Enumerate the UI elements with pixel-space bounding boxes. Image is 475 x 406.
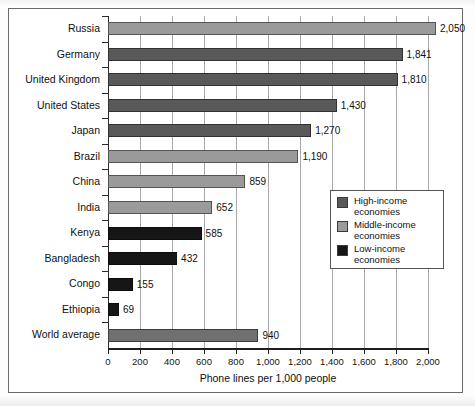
bar-value-label: 1,270 (315, 124, 340, 137)
category-tick (102, 220, 108, 221)
legend-swatch (337, 245, 348, 256)
x-tick-600 (204, 348, 205, 354)
category-label: Congo (0, 271, 100, 297)
bar (108, 124, 311, 137)
category-tick (102, 67, 108, 68)
category-label: Russia (0, 16, 100, 42)
bar (108, 22, 436, 35)
x-tick-2000 (428, 348, 429, 354)
x-tick-200 (140, 348, 141, 354)
category-label: China (0, 169, 100, 195)
x-tick-label: 1,000 (256, 356, 280, 367)
x-tick-0 (108, 348, 109, 354)
bar-value-label: 652 (216, 201, 233, 214)
x-tick-1800 (396, 348, 397, 354)
chart-row: United States1,430 (0, 93, 475, 119)
x-tick-1600 (364, 348, 365, 354)
x-tick-label: 1,800 (384, 356, 408, 367)
category-tick (102, 42, 108, 43)
chart-row: Brazil1,190 (0, 144, 475, 170)
category-label: Germany (0, 42, 100, 68)
x-tick-label: 200 (132, 356, 148, 367)
chart-row: Ethiopia69 (0, 297, 475, 323)
scan-edge-bottom (0, 394, 475, 406)
chart-row: Germany1,841 (0, 42, 475, 68)
legend-label: High-incomeeconomies (354, 196, 407, 217)
bar (108, 99, 337, 112)
x-tick-label: 1,200 (288, 356, 312, 367)
category-tick (102, 169, 108, 170)
chart-row: Russia2,050 (0, 16, 475, 42)
x-tick-1400 (332, 348, 333, 354)
bar-value-label: 585 (206, 227, 223, 240)
x-tick-label: 1,600 (352, 356, 376, 367)
x-tick-800 (236, 348, 237, 354)
legend-swatch (337, 221, 348, 232)
category-tick (102, 322, 108, 323)
category-label: Brazil (0, 144, 100, 170)
category-tick (102, 16, 108, 17)
x-tick-400 (172, 348, 173, 354)
chart-row: Japan1,270 (0, 118, 475, 144)
category-tick (102, 297, 108, 298)
legend-entry: Middle-incomeeconomies (337, 220, 439, 241)
legend: High-incomeeconomiesMiddle-incomeeconomi… (330, 190, 444, 269)
x-axis-title: Phone lines per 1,000 people (108, 372, 428, 384)
x-tick-label: 1,400 (320, 356, 344, 367)
category-label: United Kingdom (0, 67, 100, 93)
chart-row: Congo155 (0, 271, 475, 297)
category-label: Bangladesh (0, 246, 100, 272)
bar (108, 175, 245, 188)
category-label: United States (0, 93, 100, 119)
x-tick-label: 600 (196, 356, 212, 367)
bar-value-label: 1,190 (302, 150, 327, 163)
category-tick (102, 246, 108, 247)
legend-label: Low-incomeeconomies (354, 244, 405, 265)
bar-value-label: 69 (123, 303, 134, 316)
bar-value-label: 2,050 (440, 22, 465, 35)
bar (108, 201, 212, 214)
bar (108, 329, 258, 342)
category-label: Ethiopia (0, 297, 100, 323)
category-tick (102, 144, 108, 145)
phone-lines-bar-chart: Russia2,050Germany1,841United Kingdom1,8… (0, 0, 475, 406)
x-tick-1000 (268, 348, 269, 354)
category-tick (102, 271, 108, 272)
chart-row: United Kingdom1,810 (0, 67, 475, 93)
legend-swatch (337, 197, 348, 208)
bar-value-label: 1,841 (407, 48, 432, 61)
category-label: Japan (0, 118, 100, 144)
x-tick-label: 800 (228, 356, 244, 367)
category-tick (102, 118, 108, 119)
category-label: India (0, 195, 100, 221)
category-tick (102, 195, 108, 196)
category-tick (102, 93, 108, 94)
bar-value-label: 1,810 (402, 73, 427, 86)
legend-entry: High-incomeeconomies (337, 196, 439, 217)
scan-edge-top (0, 0, 475, 8)
bar (108, 278, 133, 291)
category-label: World average (0, 322, 100, 348)
category-label: Kenya (0, 220, 100, 246)
x-tick-label: 400 (164, 356, 180, 367)
bar (108, 150, 298, 163)
bar (108, 48, 403, 61)
x-tick-label: 0 (105, 356, 110, 367)
legend-entry: Low-incomeeconomies (337, 244, 439, 265)
x-tick-1200 (300, 348, 301, 354)
bar-value-label: 1,430 (341, 99, 366, 112)
x-tick-label: 2,000 (416, 356, 440, 367)
bar (108, 73, 398, 86)
bar-value-label: 859 (249, 175, 266, 188)
bar-value-label: 432 (181, 252, 198, 265)
bar (108, 303, 119, 316)
bar-value-label: 940 (262, 329, 279, 342)
bar-value-label: 155 (137, 278, 154, 291)
bar (108, 227, 202, 240)
legend-label: Middle-incomeeconomies (354, 220, 416, 241)
chart-row: World average940 (0, 322, 475, 348)
bar (108, 252, 177, 265)
